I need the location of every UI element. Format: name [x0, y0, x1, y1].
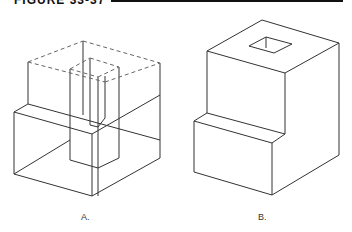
visible-edge — [272, 155, 339, 195]
panel-a-wireframe — [14, 41, 160, 196]
visible-edge — [70, 160, 98, 168]
visible-edge — [90, 125, 98, 127]
visible-edge — [249, 46, 274, 53]
visible-edge — [207, 51, 285, 73]
visible-edge — [14, 174, 92, 196]
visible-edge — [92, 158, 160, 196]
visible-edge — [249, 37, 266, 46]
hidden-edge — [28, 62, 105, 82]
panel-b-label: B. — [258, 212, 267, 222]
visible-edge — [98, 158, 119, 168]
visible-edge — [92, 95, 160, 134]
visible-edge — [14, 140, 70, 174]
panel-b-solid — [194, 20, 339, 195]
hidden-edge — [105, 63, 160, 82]
visible-edge — [14, 104, 28, 112]
hidden-edge — [28, 41, 83, 62]
visible-edge — [194, 172, 272, 195]
visible-edge — [98, 118, 105, 127]
visible-edge — [272, 134, 285, 143]
visible-edge — [194, 113, 207, 121]
visible-edge — [285, 43, 339, 73]
visible-edge — [266, 37, 292, 44]
visible-edge — [207, 20, 262, 51]
hidden-edge — [70, 58, 90, 69]
hidden-edge — [90, 58, 119, 67]
isometric-drawings — [0, 0, 352, 232]
hidden-edge — [70, 69, 98, 77]
visible-edge — [194, 121, 272, 143]
hidden-edge — [98, 67, 119, 77]
visible-edge — [274, 44, 292, 53]
visible-edge — [207, 113, 285, 134]
visible-edge — [14, 112, 92, 134]
hidden-edge — [83, 41, 160, 63]
panel-a-label: A. — [81, 212, 90, 222]
